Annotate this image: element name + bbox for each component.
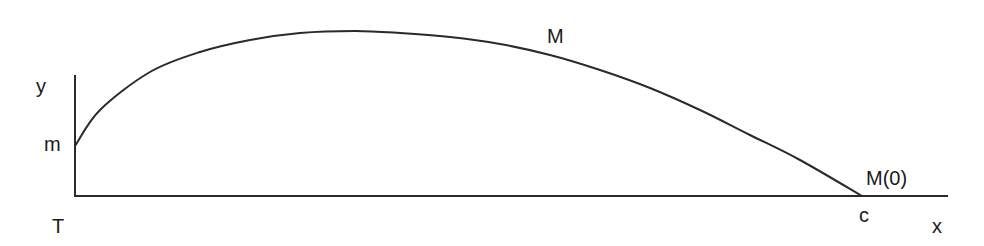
trajectory-curve [75, 31, 862, 196]
x-axis-label: x [932, 215, 942, 237]
y-axis-label: y [36, 75, 46, 97]
origin-label: T [52, 215, 64, 237]
end-point-label: M(0) [866, 167, 907, 189]
curve-point-label: M [547, 25, 564, 47]
trajectory-diagram: y m T M M(0) c x [0, 0, 984, 246]
y-intercept-label: m [44, 133, 61, 155]
x-intercept-label: c [859, 204, 869, 226]
